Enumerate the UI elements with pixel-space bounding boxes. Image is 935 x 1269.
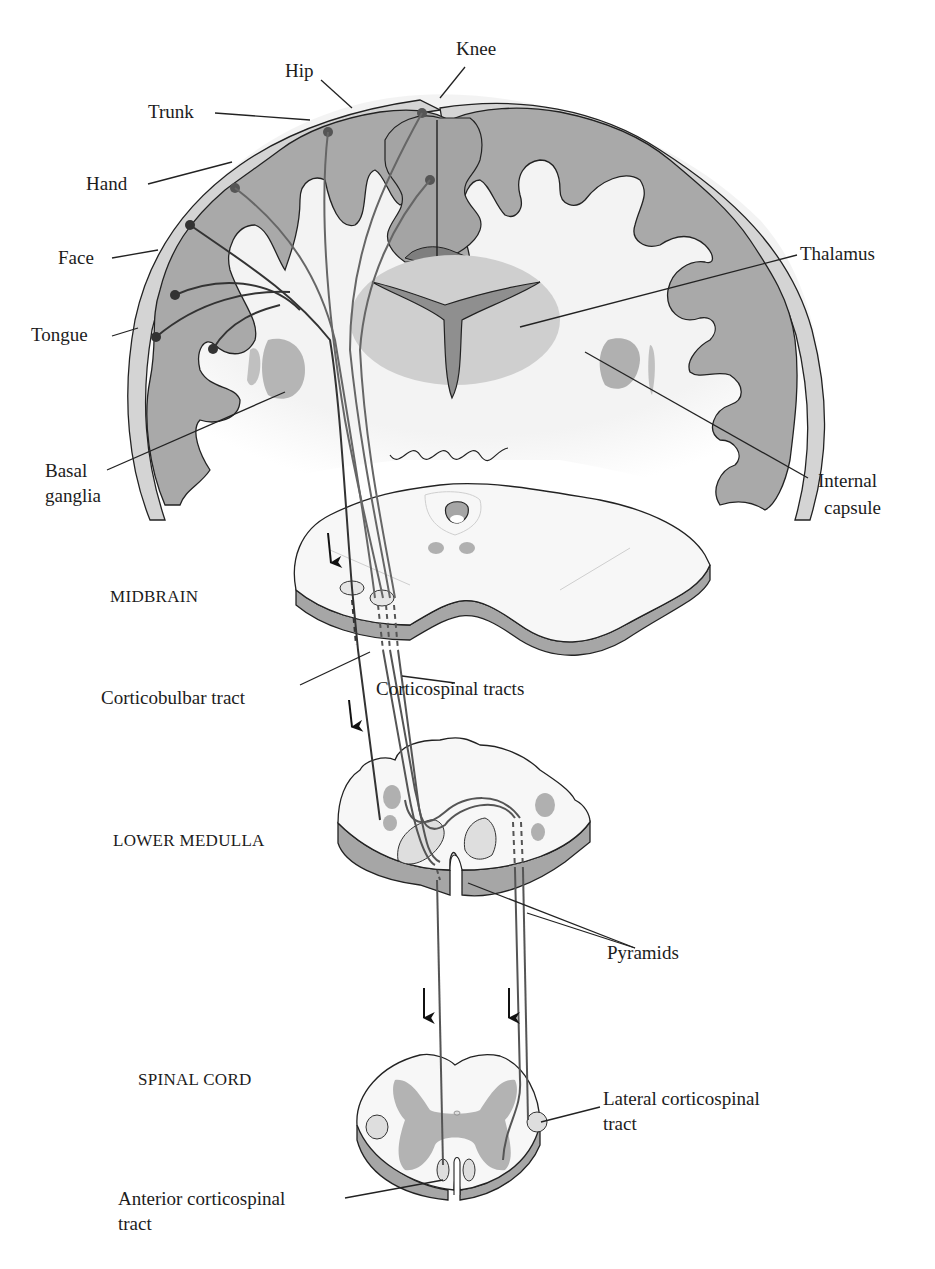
label-thalamus: Thalamus bbox=[800, 243, 875, 265]
lateral-tract-right bbox=[527, 1112, 547, 1132]
label-corticobulbar-tract: Corticobulbar tract bbox=[101, 687, 245, 709]
label-anterior-corticospinal-line2: tract bbox=[118, 1213, 152, 1235]
brain-coronal-section bbox=[128, 94, 826, 520]
anterior-median-fissure bbox=[454, 1158, 460, 1196]
label-lower-medulla: LOWER MEDULLA bbox=[113, 830, 265, 852]
spinal-trigeminal-right-2 bbox=[531, 823, 545, 841]
label-knee: Knee bbox=[456, 38, 496, 60]
label-lateral-corticospinal-line2: tract bbox=[603, 1113, 637, 1135]
label-midbrain: MIDBRAIN bbox=[110, 586, 198, 608]
label-lateral-corticospinal-line1: Lateral corticospinal bbox=[603, 1088, 760, 1110]
spinal-trigeminal-right-1 bbox=[535, 793, 555, 817]
label-pyramids: Pyramids bbox=[607, 942, 679, 964]
label-internal-capsule-line2: capsule bbox=[824, 497, 881, 519]
central-canal bbox=[454, 1111, 460, 1115]
anterior-tract-right bbox=[463, 1159, 475, 1181]
label-tongue: Tongue bbox=[31, 324, 88, 346]
spinal-trigeminal-left-1 bbox=[383, 785, 401, 809]
label-corticospinal-tracts: Corticospinal tracts bbox=[376, 678, 524, 700]
red-nucleus-right bbox=[459, 542, 475, 554]
label-internal-capsule-line1: Internal bbox=[818, 470, 877, 492]
red-nucleus-left bbox=[428, 542, 444, 554]
label-hand: Hand bbox=[86, 173, 127, 195]
label-face: Face bbox=[58, 247, 94, 269]
label-basal-ganglia-line1: Basal bbox=[45, 460, 87, 482]
label-hip: Hip bbox=[285, 60, 314, 82]
spinal-trigeminal-left-2 bbox=[383, 815, 397, 831]
spinal-cord-section bbox=[357, 1054, 547, 1200]
lower-medulla-section bbox=[338, 738, 590, 896]
label-trunk: Trunk bbox=[148, 101, 194, 123]
label-spinal-cord: SPINAL CORD bbox=[138, 1069, 252, 1091]
label-anterior-corticospinal-line1: Anterior corticospinal bbox=[118, 1188, 285, 1210]
arrow-down-icon bbox=[349, 700, 352, 727]
label-basal-ganglia-line2: ganglia bbox=[45, 485, 101, 507]
lateral-tract-left bbox=[366, 1115, 388, 1139]
